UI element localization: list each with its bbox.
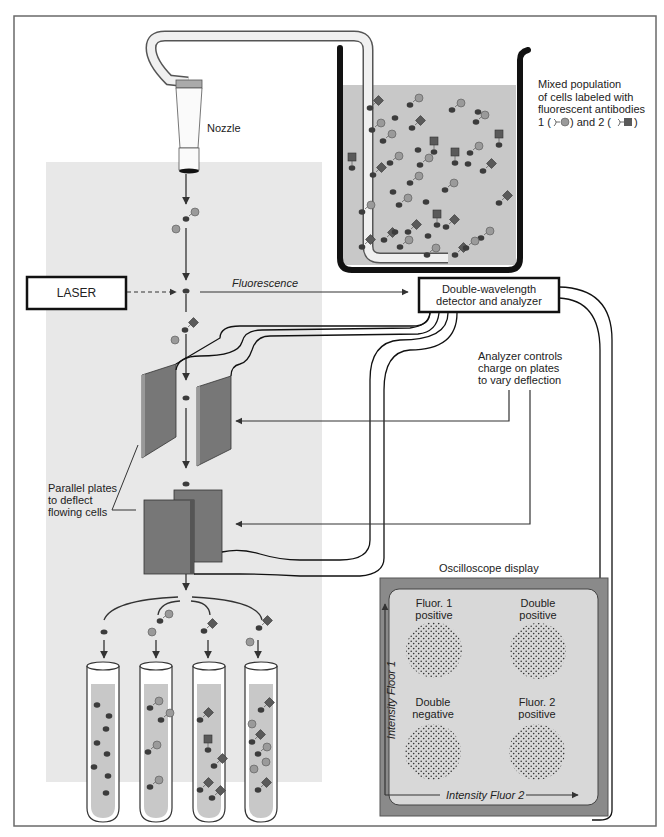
quadrant-label-top-left: Fluor. 1 positive: [404, 597, 464, 621]
antibody2-square-icon: [624, 118, 632, 126]
cluster-fluor1-positive: [406, 622, 462, 678]
oscilloscope-title: Oscilloscope display: [439, 562, 539, 574]
tube-1: [87, 662, 119, 822]
cluster-fluor2-positive: [509, 724, 565, 780]
tube-4: [245, 662, 277, 822]
cluster-double-negative: [405, 724, 461, 780]
x-axis-label: Intensity Fluor 2: [446, 789, 524, 801]
y-axis-label: Intensity Floor 1: [385, 655, 397, 745]
tube-2: [140, 662, 174, 822]
parallel-plates-label: Parallel plates to deflect flowing cells: [48, 482, 117, 518]
antibody1-circle-icon: [561, 118, 569, 126]
deflection-plates-lower: [144, 490, 222, 574]
nozzle: [176, 80, 202, 174]
laser-label: LASER: [27, 277, 126, 309]
quadrant-label-top-right: Double positive: [508, 597, 568, 621]
tube-3: [193, 662, 227, 822]
quadrant-label-bottom-right: Fluor. 2 positive: [507, 696, 567, 720]
svg-text:1 (: 1 (: [538, 116, 551, 128]
detector-label: Double-wavelength detector and analyzer: [419, 278, 559, 312]
nozzle-label: Nozzle: [207, 122, 241, 134]
cluster-double-positive: [510, 623, 566, 679]
svg-text:) and 2 (: ) and 2 (: [570, 116, 611, 128]
quadrant-label-bottom-left: Double negative: [403, 696, 463, 720]
analyzer-controls-label: Analyzer controls charge on plates to va…: [478, 350, 562, 386]
fluorescence-label: Fluorescence: [232, 277, 298, 289]
svg-text:): ): [634, 116, 638, 128]
